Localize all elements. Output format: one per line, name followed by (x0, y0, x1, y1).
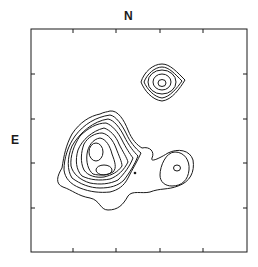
compact-source-contours (141, 64, 185, 101)
secondary-source-contours (160, 152, 189, 186)
ticks (31, 29, 247, 252)
extended-source-contours (58, 111, 194, 210)
plot-frame (31, 29, 247, 252)
marker-dot (134, 172, 137, 175)
contour-map (0, 0, 258, 267)
